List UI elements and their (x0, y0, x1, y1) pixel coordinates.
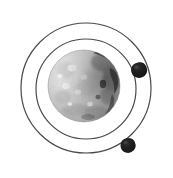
illustration-canvas: Planet with two orbiting moons Pencil-st… (0, 0, 173, 178)
planet-orbit-diagram (0, 0, 173, 178)
central-planet (48, 50, 121, 122)
